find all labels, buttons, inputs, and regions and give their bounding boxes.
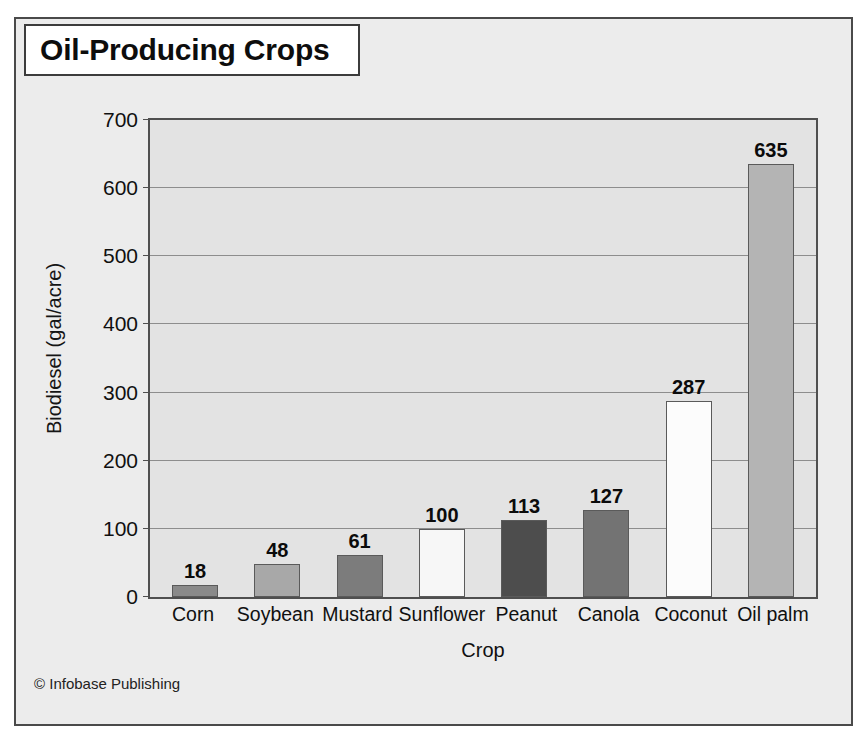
bar-slot: 18 [154,120,236,597]
y-tick-mark [143,596,150,597]
y-tick-label: 600 [103,176,138,200]
bar-slot: 61 [319,120,401,597]
y-axis-label: Biodiesel (gal/acre) [43,219,66,479]
y-tick-label: 700 [103,108,138,132]
bar-value-label: 48 [266,539,288,562]
credit-line: © Infobase Publishing [34,675,180,692]
x-tick-label: Coconut [650,603,732,626]
page-title: Oil-Producing Crops [40,33,330,67]
bar-slot: 113 [483,120,565,597]
bar-slot: 48 [236,120,318,597]
bar[interactable]: 48 [254,564,300,597]
bar-value-label: 18 [184,560,206,583]
x-axis-label: Crop [148,639,818,662]
x-tick-label: Peanut [485,603,567,626]
figure-frame: Oil-Producing Crops Biodiesel (gal/acre)… [14,17,853,726]
bar-value-label: 127 [590,485,623,508]
y-tick-label: 400 [103,312,138,336]
x-axis-ticks: CornSoybeanMustardSunflowerPeanutCanolaC… [148,603,818,626]
y-tick-label: 0 [126,585,138,609]
chart-page: Oil-Producing Crops Biodiesel (gal/acre)… [0,0,865,754]
y-tick-mark [143,528,150,529]
bar[interactable]: 100 [419,529,465,597]
y-tick-label: 500 [103,244,138,268]
y-tick-mark [143,255,150,256]
y-tick-mark [143,392,150,393]
x-tick-label: Corn [152,603,234,626]
bar[interactable]: 287 [666,401,712,597]
y-tick-mark [143,119,150,120]
y-tick-label: 100 [103,517,138,541]
bar[interactable]: 61 [337,555,383,597]
bar-value-label: 61 [348,530,370,553]
bar-value-label: 100 [425,504,458,527]
y-tick-mark [143,460,150,461]
bar-value-label: 635 [754,139,787,162]
bar[interactable]: 113 [501,520,547,597]
y-tick-label: 200 [103,449,138,473]
x-tick-label: Sunflower [399,603,486,626]
bar-value-label: 113 [508,495,540,518]
x-tick-label: Oil palm [732,603,814,626]
y-tick-mark [143,187,150,188]
bar-slot: 287 [648,120,730,597]
chart-title-box: Oil-Producing Crops [24,24,360,76]
y-tick-label: 300 [103,381,138,405]
x-tick-label: Mustard [316,603,398,626]
bar-series: 184861100113127287635 [150,120,816,597]
bar[interactable]: 18 [172,585,218,597]
bar[interactable]: 635 [748,164,794,597]
y-tick-mark [143,323,150,324]
plot-area: 0100200300400500600700 18486110011312728… [148,118,818,599]
bar[interactable]: 127 [583,510,629,597]
bar-value-label: 287 [672,376,705,399]
bar-slot: 635 [730,120,812,597]
bar-slot: 127 [565,120,647,597]
x-tick-label: Canola [567,603,649,626]
x-tick-label: Soybean [234,603,316,626]
bar-slot: 100 [401,120,483,597]
